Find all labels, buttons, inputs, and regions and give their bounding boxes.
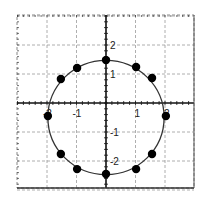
data-point — [102, 56, 110, 64]
y-tick-label: 1 — [110, 69, 116, 80]
data-point — [73, 64, 81, 72]
data-point — [148, 150, 156, 158]
data-point — [162, 112, 170, 120]
x-tick-label: 1 — [135, 108, 141, 119]
data-point — [57, 150, 65, 158]
data-point — [148, 74, 156, 82]
data-point — [44, 112, 52, 120]
y-tick-label: 2 — [110, 40, 116, 51]
data-point — [132, 63, 140, 71]
y-tick-label: -2 — [110, 156, 119, 167]
data-point — [73, 165, 81, 173]
data-point — [102, 170, 110, 178]
circle-scatter-plot: -2-11221-1-2 — [0, 0, 206, 199]
y-tick-label: -1 — [110, 127, 119, 138]
data-point — [57, 75, 65, 83]
data-point — [132, 165, 140, 173]
x-tick-label: -1 — [73, 108, 82, 119]
